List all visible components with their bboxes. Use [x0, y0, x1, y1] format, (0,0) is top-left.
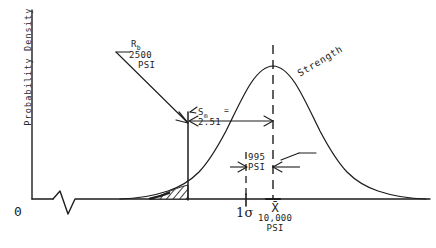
rb-units: PSI	[138, 61, 155, 71]
mean-symbol: X̄	[258, 203, 292, 213]
strength-curve	[120, 66, 426, 199]
strength-distribution-figure: Probability Density 0 Rb2500PSI Sm=2.51 …	[0, 0, 436, 248]
rb-annotation: Rb2500PSI	[131, 40, 155, 70]
mean-centerline	[266, 45, 280, 199]
mean-annotation: X̄10,000PSI	[258, 203, 292, 234]
one-sigma-tick-label: 1σ	[236, 206, 254, 220]
sigma-band-units: PSI	[248, 163, 265, 173]
origin-label: 0	[14, 205, 22, 219]
sm-value: 2.51	[198, 118, 221, 128]
sigma-band-annotation: 995PSI	[248, 153, 265, 172]
mean-units: PSI	[258, 224, 292, 234]
sm-equals: =	[224, 107, 229, 116]
sigma-band-leader	[281, 153, 316, 160]
sm-annotation: Sm=2.51	[198, 108, 221, 128]
y-axis-label: Probability Density	[24, 0, 33, 142]
x-axis-baseline	[32, 191, 430, 214]
sigma-band-value: 995	[248, 152, 265, 162]
sm-leader-tick	[190, 107, 197, 113]
